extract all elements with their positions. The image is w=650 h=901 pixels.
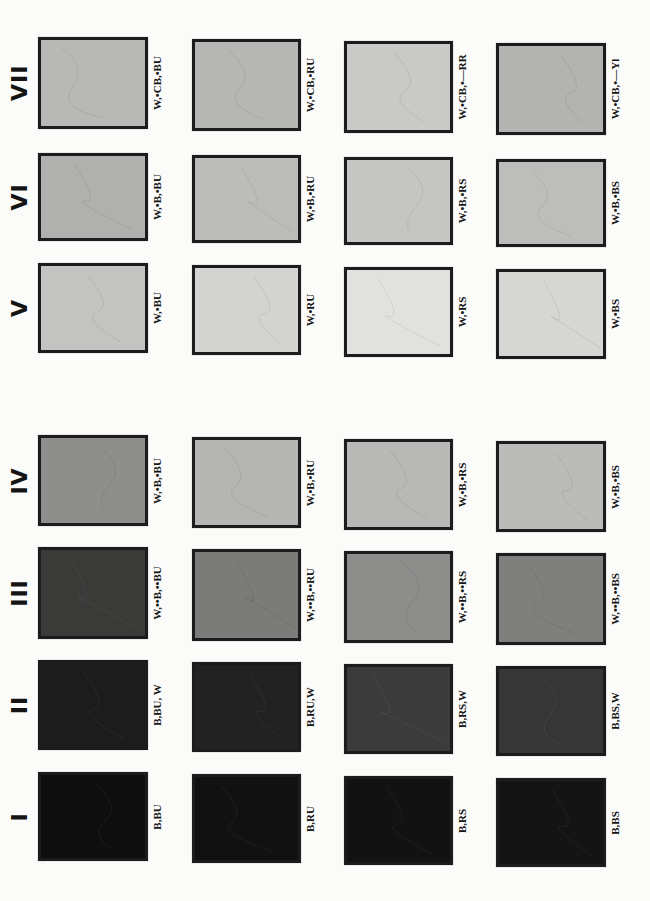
swatch-plate: VIIW,•CB,•BUW,•CB,•RUW,•CB,•—RRW,•CB,•—Y… (0, 0, 650, 901)
swatch-label: W,••B,••RU (302, 540, 318, 650)
paint-swatch (192, 155, 301, 243)
crack-texture (41, 550, 145, 636)
swatch-label: B,BU (149, 762, 165, 872)
swatch-label: W,•CB,•—RR (454, 32, 470, 142)
swatch-label: W,•CB,•—Yl (607, 34, 623, 144)
crack-texture (195, 42, 298, 128)
paint-swatch (496, 778, 606, 867)
crack-texture (499, 272, 603, 356)
swatch-label: W,•RU (302, 255, 318, 365)
paint-swatch (38, 435, 148, 526)
paint-swatch (344, 267, 453, 357)
row-numeral-label: II (2, 687, 38, 723)
crack-texture (195, 777, 298, 860)
crack-texture (499, 781, 603, 864)
crack-texture (41, 266, 145, 350)
paint-swatch (496, 159, 606, 247)
row-numeral-label: VII (2, 65, 38, 101)
paint-swatch (344, 664, 453, 754)
swatch-label: W,••B,••BU (149, 538, 165, 648)
crack-texture (41, 775, 145, 858)
crack-texture (41, 156, 145, 238)
crack-texture (499, 444, 603, 529)
paint-swatch (192, 549, 301, 641)
crack-texture (499, 556, 603, 642)
paint-swatch (496, 441, 606, 532)
swatch-label: B,BU, W (149, 650, 165, 760)
crack-texture (195, 158, 298, 240)
swatch-label: B,RU (302, 764, 318, 874)
crack-texture (41, 40, 145, 126)
swatch-label: W,••B,••RS (454, 542, 470, 652)
crack-texture (347, 270, 450, 354)
row-numeral-label: V (2, 290, 38, 326)
crack-texture (195, 440, 298, 525)
row-numeral-label: VI (2, 179, 38, 215)
row-numeral-label: I (2, 799, 38, 835)
swatch-label: B,BS (607, 768, 623, 878)
crack-texture (195, 268, 298, 352)
swatch-label: W,•B,•BS (607, 148, 623, 258)
crack-texture (41, 663, 145, 747)
paint-swatch (344, 439, 453, 530)
swatch-label: W,•B,•RU (302, 428, 318, 538)
paint-swatch (496, 43, 606, 135)
paint-swatch (344, 157, 453, 245)
swatch-label: W,•CB,•RU (302, 30, 318, 140)
swatch-label: B,RS,W (454, 654, 470, 764)
crack-texture (41, 438, 145, 523)
swatch-label: W,•B,•BS (607, 432, 623, 542)
crack-texture (347, 779, 450, 862)
crack-texture (499, 46, 603, 132)
paint-swatch (192, 39, 301, 131)
swatch-label: W,••B,••BS (607, 544, 623, 654)
crack-texture (195, 665, 298, 749)
swatch-label: W,•B,•RS (454, 146, 470, 256)
paint-swatch (192, 437, 301, 528)
swatch-label: W,•B,•RU (302, 144, 318, 254)
paint-swatch (344, 551, 453, 643)
paint-swatch (38, 547, 148, 639)
paint-swatch (38, 772, 148, 861)
paint-swatch (38, 660, 148, 750)
swatch-label: W,•B,•BU (149, 142, 165, 252)
row-numeral-label: IV (2, 463, 38, 499)
paint-swatch (38, 153, 148, 241)
paint-swatch (38, 37, 148, 129)
crack-texture (347, 667, 450, 751)
crack-texture (499, 669, 603, 753)
paint-swatch (496, 553, 606, 645)
swatch-label: W,•B,•RS (454, 430, 470, 540)
paint-swatch (192, 265, 301, 355)
swatch-label: W,•CB,•BU (149, 28, 165, 138)
crack-texture (195, 552, 298, 638)
swatch-label: B,RU,W (302, 652, 318, 762)
swatch-label: W,•BU (149, 253, 165, 363)
paint-swatch (496, 666, 606, 756)
swatch-label: B,RS (454, 766, 470, 876)
crack-texture (499, 162, 603, 244)
paint-swatch (192, 774, 301, 863)
swatch-label: W,•B,•BU (149, 426, 165, 536)
paint-swatch (344, 41, 453, 133)
paint-swatch (344, 776, 453, 865)
crack-texture (347, 442, 450, 527)
paint-swatch (192, 662, 301, 752)
swatch-label: W,•BS (607, 259, 623, 369)
swatch-label: W,•RS (454, 257, 470, 367)
crack-texture (347, 44, 450, 130)
paint-swatch (496, 269, 606, 359)
crack-texture (347, 554, 450, 640)
paint-swatch (38, 263, 148, 353)
row-numeral-label: III (2, 575, 38, 611)
crack-texture (347, 160, 450, 242)
swatch-label: B,BS,W (607, 656, 623, 766)
